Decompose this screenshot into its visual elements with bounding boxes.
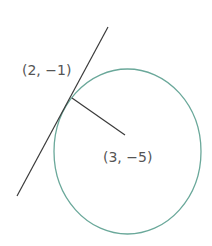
center-point-label: (3, −5) [103, 149, 152, 165]
tangent-line [17, 27, 108, 196]
radius-line [72, 98, 125, 135]
tangent-circle-diagram: (2, −1) (3, −5) [0, 0, 212, 246]
tangent-point-label: (2, −1) [22, 62, 71, 78]
